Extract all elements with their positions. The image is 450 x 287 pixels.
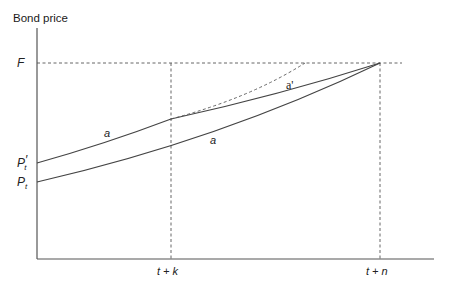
price-prime-mark: ′ [25,153,27,167]
x-tick-t-plus-k: t + k [157,265,178,277]
price-label: Pt [17,175,27,191]
face-value-label: F [17,56,24,70]
y-axis-title: Bond price [13,12,68,24]
price-prime-label: P′t [17,156,27,172]
x-tick-t-plus-n: t + n [366,265,388,277]
curve-a-prime [171,63,380,119]
curve-label-upper-a: a [104,127,110,139]
curve-label-lower-a: a [210,134,216,146]
curve-label-a-prime: a' [286,78,294,93]
bond-price-diagram [0,0,450,287]
curve-a-upper [37,119,171,163]
price-subscript: t [25,182,27,191]
price-symbol: P [17,175,25,189]
curve-a-lower [37,63,380,182]
